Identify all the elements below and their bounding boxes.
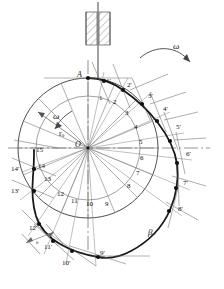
label-stroke-h: h <box>36 240 39 245</box>
outer-label-9p: 9' <box>100 250 105 257</box>
label-omega-outer: ω <box>173 42 179 51</box>
label-beta: β <box>148 228 152 237</box>
label-center-O: O <box>75 141 81 149</box>
outer-label-2p: 2' <box>127 82 132 89</box>
inner-label-15: 15 <box>36 147 43 154</box>
inner-label-9: 9 <box>105 201 109 208</box>
cam-profile-curve <box>32 78 177 258</box>
diagram-canvas <box>0 0 224 289</box>
inner-label-11: 11 <box>71 198 78 205</box>
outer-label-14p: 14' <box>11 166 19 173</box>
outer-label-12p: 12' <box>29 225 37 232</box>
inner-label-4: 4 <box>134 124 138 131</box>
outer-label-8p: 8' <box>178 206 183 213</box>
outer-label-4p: 4' <box>163 106 168 113</box>
inner-label-6: 6 <box>140 155 144 162</box>
construction-rays <box>20 72 192 266</box>
centre-point-marker <box>87 147 90 150</box>
outer-label-10p: 10' <box>62 260 70 267</box>
inner-label-12: 12 <box>57 191 64 198</box>
inner-label-5: 5 <box>139 139 143 146</box>
label-omega-inner: ω <box>53 112 59 121</box>
omega-arrow-outer <box>140 49 190 62</box>
outer-label-1p: 1' <box>106 78 111 85</box>
inner-label-1: 1 <box>99 95 103 102</box>
inner-label-8: 8 <box>127 183 131 190</box>
label-base-radius: r0 <box>59 130 64 138</box>
outer-label-13p: 13' <box>11 188 19 195</box>
inner-label-7: 7 <box>136 170 140 177</box>
outer-label-7p: 7' <box>183 180 188 187</box>
label-point-A: A <box>77 71 82 79</box>
inner-label-2: 2 <box>113 99 117 106</box>
cam-profile-diagram: O A ω ω β r0 h 1 2 3 4 5 6 7 8 9 10 11 1… <box>0 0 224 289</box>
inner-label-3: 3 <box>125 110 129 117</box>
outer-label-5p: 5' <box>176 124 181 131</box>
outer-label-11p: 11' <box>44 244 52 251</box>
inner-label-13: 13 <box>44 176 51 183</box>
inner-label-10: 10 <box>86 201 93 208</box>
inner-label-14: 14 <box>38 163 45 170</box>
outer-label-6p: 6' <box>186 151 191 158</box>
outer-label-3p: 3' <box>148 93 153 100</box>
